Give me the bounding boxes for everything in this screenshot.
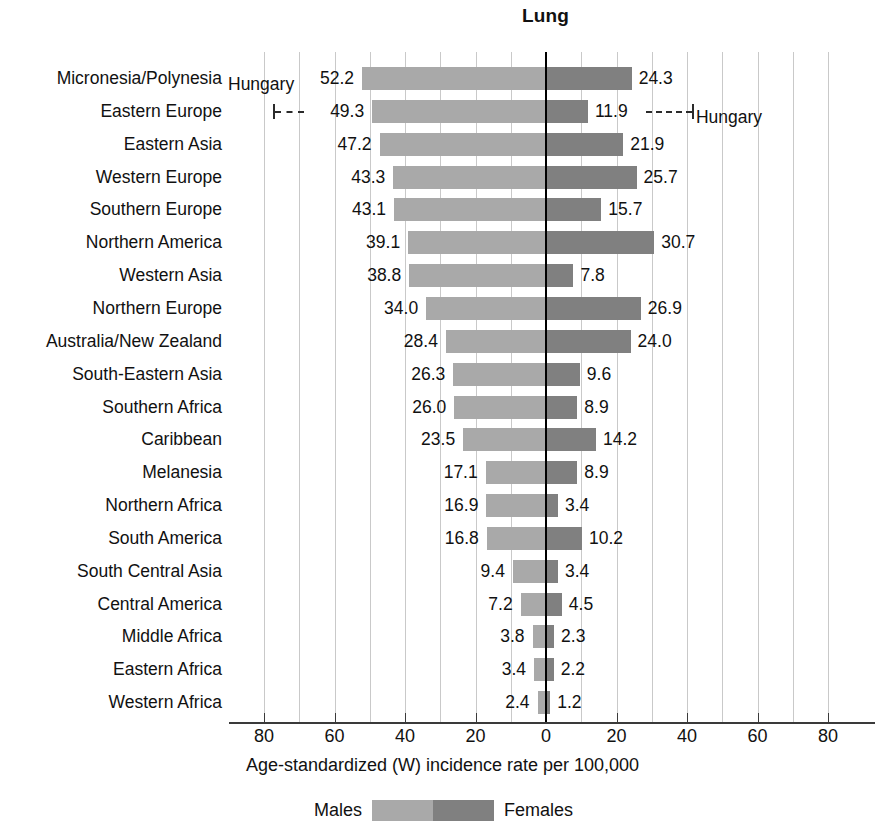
x-axis-tick-label: 40	[375, 726, 435, 747]
bar-female	[546, 67, 632, 90]
bar-female	[546, 494, 558, 517]
value-label-female: 2.2	[561, 653, 619, 686]
chart-legend: Males Females	[0, 800, 891, 821]
x-axis-tick-label: 60	[728, 726, 788, 747]
bar-female	[546, 264, 573, 287]
x-axis-tick-label: 60	[305, 726, 365, 747]
region-label: Central America	[0, 588, 222, 621]
chart-row: South Central Asia9.43.4	[0, 555, 891, 588]
annotation-tick-hungary-right	[692, 104, 694, 119]
region-label: Northern America	[0, 226, 222, 259]
region-label: Eastern Asia	[0, 128, 222, 161]
value-label-female: 2.3	[561, 620, 619, 653]
annotation-label-hungary-right: Hungary	[696, 101, 762, 134]
value-label-female: 11.9	[595, 95, 653, 128]
bar-female	[546, 231, 654, 254]
bar-male	[453, 363, 546, 386]
bar-male	[463, 428, 546, 451]
bar-male	[487, 527, 546, 550]
chart-row: Western Europe43.325.7	[0, 161, 891, 194]
value-label-male: 49.3	[306, 95, 364, 128]
bar-male	[393, 166, 546, 189]
region-label: South-Eastern Asia	[0, 358, 222, 391]
region-label: Eastern Africa	[0, 653, 222, 686]
bar-female	[546, 428, 596, 451]
region-label: Melanesia	[0, 456, 222, 489]
value-label-female: 30.7	[661, 226, 719, 259]
region-label: Micronesia/Polynesia	[0, 62, 222, 95]
x-axis-tick-label: 40	[657, 726, 717, 747]
x-axis-tick	[828, 713, 829, 722]
region-label: Western Asia	[0, 259, 222, 292]
chart-row: Central America7.24.5	[0, 588, 891, 621]
chart-row: Eastern Africa3.42.2	[0, 653, 891, 686]
value-label-male: 34.0	[360, 292, 418, 325]
region-label: Western Africa	[0, 686, 222, 719]
value-label-female: 3.4	[565, 555, 623, 588]
value-label-male: 43.3	[327, 161, 385, 194]
value-label-male: 39.1	[342, 226, 400, 259]
bar-male	[486, 461, 546, 484]
x-axis-tick-label: 20	[587, 726, 647, 747]
x-axis-caption-text: Age-standardized (W) incidence rate per …	[246, 755, 639, 776]
legend-swatch-females	[433, 800, 494, 821]
x-axis-tick	[687, 713, 688, 722]
chart-row: South America16.810.2	[0, 522, 891, 555]
value-label-male: 3.4	[468, 653, 526, 686]
value-label-male: 26.3	[387, 358, 445, 391]
value-label-female: 25.7	[644, 161, 702, 194]
bar-female	[546, 330, 631, 353]
x-axis-tick-label: 80	[798, 726, 858, 747]
region-label: Western Europe	[0, 161, 222, 194]
x-axis-tick	[335, 713, 336, 722]
annotation-dash-hungary-right	[646, 111, 692, 114]
chart-row: Micronesia/Polynesia52.224.3	[0, 62, 891, 95]
x-axis-tick	[264, 713, 265, 722]
chart-root: Lung Micronesia/Polynesia52.224.3Eastern…	[0, 0, 891, 834]
bar-male	[380, 133, 546, 156]
value-label-female: 1.2	[557, 686, 615, 719]
value-label-male: 3.8	[467, 620, 525, 653]
region-label: Australia/New Zealand	[0, 325, 222, 358]
value-label-male: 52.2	[296, 62, 354, 95]
region-label: Northern Africa	[0, 489, 222, 522]
bar-male	[486, 494, 546, 517]
value-label-male: 43.1	[328, 193, 386, 226]
value-label-male: 38.8	[343, 259, 401, 292]
bar-male	[362, 67, 546, 90]
bar-female	[546, 527, 582, 550]
x-axis-caption: Age-standardized (W) incidence rate per …	[0, 755, 891, 776]
value-label-female: 9.6	[587, 358, 645, 391]
legend-swatch-males	[372, 800, 433, 821]
value-label-male: 9.4	[447, 555, 505, 588]
bar-male	[454, 396, 546, 419]
value-label-female: 21.9	[630, 128, 688, 161]
bar-male	[394, 198, 546, 221]
legend-swatches	[372, 800, 494, 821]
value-label-male: 23.5	[397, 423, 455, 456]
chart-row: Melanesia17.18.9	[0, 456, 891, 489]
region-label: Northern Europe	[0, 292, 222, 325]
value-label-female: 15.7	[608, 193, 666, 226]
bar-female	[546, 166, 637, 189]
value-label-female: 26.9	[648, 292, 706, 325]
chart-row: Middle Africa3.82.3	[0, 620, 891, 653]
bar-male	[533, 625, 546, 648]
region-label: Southern Africa	[0, 391, 222, 424]
value-label-male: 16.9	[420, 489, 478, 522]
bar-male	[409, 264, 546, 287]
x-axis-tick	[476, 713, 477, 722]
bar-male	[521, 593, 546, 616]
x-axis-line	[229, 722, 875, 724]
chart-row: Northern Africa16.93.4	[0, 489, 891, 522]
bar-female	[546, 133, 623, 156]
value-label-female: 7.8	[580, 259, 638, 292]
chart-row: Southern Africa26.08.9	[0, 391, 891, 424]
value-label-male: 17.1	[420, 456, 478, 489]
legend-label-males: Males	[314, 800, 362, 821]
region-label: Eastern Europe	[0, 95, 222, 128]
value-label-female: 8.9	[584, 391, 642, 424]
legend-label-females: Females	[504, 800, 573, 821]
bar-female	[546, 100, 588, 123]
x-axis-tick-label: 20	[446, 726, 506, 747]
